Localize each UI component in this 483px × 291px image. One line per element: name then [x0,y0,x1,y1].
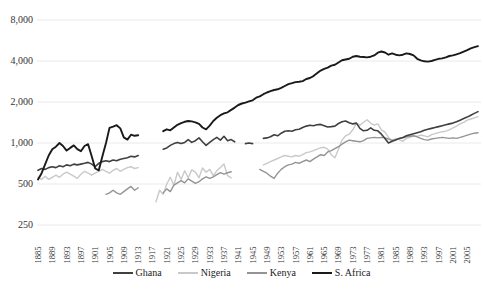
x-tick-label-1981: 1981 [377,236,386,264]
x-tick-label-1977: 1977 [363,236,372,264]
x-tick-label-1913: 1913 [134,236,143,264]
legend-item-nigeria: Nigeria [178,267,231,279]
x-tick-label-2001: 2001 [448,236,457,264]
legend-label: Ghana [136,267,162,279]
x-tick-label-1997: 1997 [434,236,443,264]
series-line-s-africa [38,46,478,179]
x-tick-label-1961: 1961 [305,236,314,264]
legend-item-ghana: Ghana [113,267,162,279]
x-tick-label-1929: 1929 [191,236,200,264]
legend-item-s-africa: S. Africa [312,267,371,279]
legend-label: Kenya [270,267,296,279]
x-tick-label-1909: 1909 [119,236,128,264]
x-tick-label-1989: 1989 [406,236,415,264]
x-tick-label-1905: 1905 [105,236,114,264]
x-tick-label-1993: 1993 [420,236,429,264]
series-line-ghana [38,112,478,171]
x-tick-label-1941: 1941 [234,236,243,264]
x-tick-label-1885: 1885 [34,236,43,264]
legend-item-kenya: Kenya [247,267,296,279]
x-tick-label-1897: 1897 [76,236,85,264]
x-tick-label-1917: 1917 [148,236,157,264]
x-tick-label-2005: 2005 [463,236,472,264]
series-line-kenya [106,133,478,195]
x-tick-label-1973: 1973 [348,236,357,264]
series-line-nigeria [38,117,478,202]
legend-line-swatch [178,272,198,274]
x-tick-label-1985: 1985 [391,236,400,264]
legend-label: Nigeria [201,267,231,279]
chart-figure: 8,0004,0002,0001,000500250 1885188918931… [0,0,483,291]
y-tick-label-250: 250 [0,220,33,230]
legend-label: S. Africa [335,267,371,279]
x-tick-label-1945: 1945 [248,236,257,264]
legend-line-swatch [247,272,267,274]
legend-line-swatch [312,272,332,275]
x-tick-label-1965: 1965 [320,236,329,264]
x-tick-label-1937: 1937 [220,236,229,264]
legend-line-swatch [113,272,133,275]
x-tick-label-1949: 1949 [262,236,271,264]
y-tick-label-1000: 1,000 [0,138,33,148]
x-tick-label-1921: 1921 [162,236,171,264]
chart-legend: GhanaNigeriaKenyaS. Africa [0,265,483,281]
x-tick-label-1901: 1901 [91,236,100,264]
x-tick-label-1893: 1893 [62,236,71,264]
x-tick-label-1957: 1957 [291,236,300,264]
y-tick-label-4000: 4,000 [0,56,33,66]
x-tick-label-1969: 1969 [334,236,343,264]
x-tick-label-1889: 1889 [48,236,57,264]
y-tick-label-500: 500 [0,179,33,189]
x-tick-label-1953: 1953 [277,236,286,264]
x-tick-label-1933: 1933 [205,236,214,264]
x-tick-label-1925: 1925 [177,236,186,264]
y-tick-label-8000: 8,000 [0,15,33,25]
y-tick-label-2000: 2,000 [0,97,33,107]
